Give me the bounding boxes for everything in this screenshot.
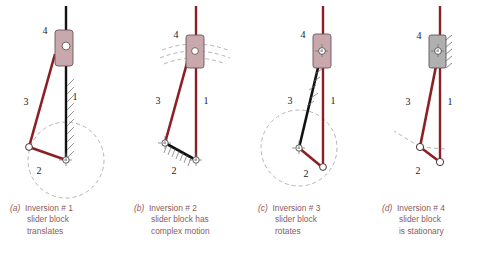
panel-c-caption-line1: Inversion # 3	[272, 203, 320, 213]
link-1-label: 1	[331, 95, 336, 106]
panel-a: 4 1 3 2 (a) Inversion # 1 slider block t…	[0, 0, 124, 266]
panel-b-caption: (b) Inversion # 2 slider block has compl…	[124, 203, 248, 237]
panel-b: 4 1 3 2 (b) Inversion # 2 slider block h…	[124, 0, 248, 266]
link-3-label: 3	[156, 95, 161, 106]
link-2-label: 2	[37, 165, 42, 176]
panel-b-caption-line3: complex motion	[124, 226, 248, 237]
link-2-crank	[29, 147, 66, 160]
panel-d-caption-line3: is stationary	[372, 226, 496, 237]
slider-crank-inversions-figure: 4 1 3 2 (a) Inversion # 1 slider block t…	[0, 0, 496, 266]
link-3-coupler	[29, 54, 55, 147]
ground-pivot-left	[158, 136, 172, 150]
link-3-ground	[299, 55, 321, 148]
slider-pin-joint	[62, 42, 70, 50]
link-1-label: 1	[448, 96, 453, 107]
ground-hatching	[164, 145, 191, 166]
panel-c-caption-line3: rotates	[248, 226, 372, 237]
link-2-label: 2	[172, 165, 177, 176]
link-4-label: 4	[174, 29, 179, 40]
panel-d: 4 1 3 2 (d) Inversion # 4 slider block i…	[372, 0, 496, 266]
link-2-crank	[299, 148, 322, 167]
panel-d-diagram: 4 1 3 2	[372, 0, 496, 200]
panel-a-caption-line3: translates	[0, 226, 124, 237]
link-3-coupler	[420, 56, 438, 147]
link2-link3-joint	[416, 143, 423, 150]
slider-pin-joint	[192, 48, 199, 55]
ground-hatching	[446, 35, 452, 68]
panel-d-caption-line1: Inversion # 4	[397, 203, 445, 213]
panel-a-caption: (a) Inversion # 1 slider block translate…	[0, 203, 124, 237]
panel-b-caption-line2: slider block has	[124, 214, 248, 225]
link-1-label: 1	[73, 91, 78, 102]
panel-a-caption-label: (a)	[10, 203, 20, 213]
link-3-label: 3	[24, 96, 29, 107]
link-4-label: 4	[301, 29, 306, 40]
link-2-label: 2	[416, 165, 421, 176]
panel-a-diagram: 4 1 3 2	[0, 0, 124, 200]
panel-c: 4 1 3 2 (c) Inversion # 3 slider block r…	[248, 0, 372, 266]
panel-d-caption-label: (d)	[382, 203, 392, 213]
panel-a-caption-line1: Inversion # 1	[25, 203, 73, 213]
crank-link1-joint	[320, 164, 327, 171]
panel-c-caption-line2: slider block	[248, 214, 372, 225]
link1-link2-joint	[436, 158, 443, 165]
panel-c-caption-label: (c)	[258, 203, 268, 213]
crank-coupler-joint	[26, 144, 33, 151]
link-3-label: 3	[288, 95, 293, 106]
panel-d-caption: (d) Inversion # 4 slider block is statio…	[372, 203, 496, 237]
link-3-label: 3	[406, 96, 411, 107]
panel-c-diagram: 4 1 3 2	[248, 0, 372, 200]
panel-b-diagram: 4 1 3 2	[124, 0, 248, 200]
link-4-label: 4	[43, 25, 48, 36]
panel-c-caption: (c) Inversion # 3 slider block rotates	[248, 203, 372, 237]
ground-pivot-symbol	[59, 153, 73, 167]
panel-d-caption-line2: slider block	[372, 214, 496, 225]
panel-a-caption-line2: slider block	[0, 214, 124, 225]
ground-pivot-right	[189, 153, 203, 167]
link-4-label: 4	[417, 30, 422, 41]
link-2-label: 2	[304, 168, 309, 179]
link-1-label: 1	[204, 95, 209, 106]
panel-b-caption-line1: Inversion # 2	[149, 203, 197, 213]
panel-b-caption-label: (b)	[134, 203, 144, 213]
